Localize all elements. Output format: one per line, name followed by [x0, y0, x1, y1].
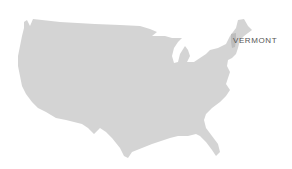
- us-map: VERMONT: [0, 0, 292, 169]
- us-landmass: [18, 19, 252, 158]
- us-outline-svg: [0, 0, 292, 169]
- state-label-vermont: VERMONT: [233, 36, 277, 46]
